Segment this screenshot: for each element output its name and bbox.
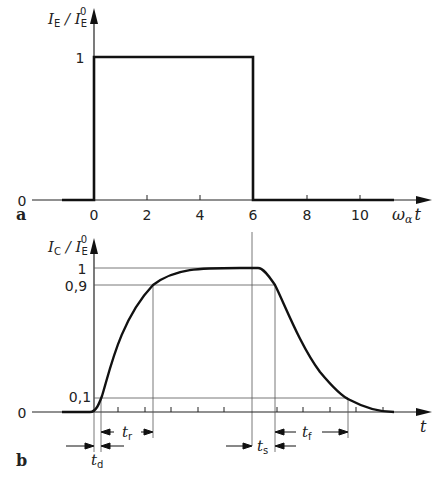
tf-label: tf — [302, 423, 312, 442]
panel-a-pulse-curve — [62, 57, 394, 200]
panel-a-x-arrow-icon — [416, 196, 432, 204]
panel-a-ytick-1: 1 — [76, 50, 85, 66]
panel-a-xtick-8: 8 — [303, 207, 312, 223]
panel-a-y-arrow-icon — [90, 8, 98, 24]
panel-b-ytick-0.1: 0,1 — [69, 389, 91, 405]
panel-a-xtick-2: 2 — [143, 207, 152, 223]
ts-label: ts — [257, 437, 268, 456]
panel-b-ytick-0.9: 0,9 — [65, 278, 87, 294]
panel-a-xtick-4: 4 — [196, 207, 205, 223]
tr-label: tr — [122, 423, 133, 442]
panel-b-ytick-1: 1 — [78, 261, 87, 277]
pulse-response-diagram: 1 0 0 2 4 6 8 10 ωαt IE / IE0 a — [0, 0, 439, 478]
panel-a-label: a — [16, 205, 26, 224]
panel-b-x-arrow-icon — [416, 408, 432, 416]
panel-b-ytick-0: 0 — [18, 405, 27, 421]
panel-a-xtick-6: 6 — [249, 207, 258, 223]
td-label: td — [91, 451, 103, 470]
panel-a-x-axis-label: ωαt — [392, 205, 421, 226]
panel-b-response-curve — [62, 268, 394, 412]
panel-a: 1 0 0 2 4 6 8 10 ωαt IE / IE0 a — [16, 6, 432, 226]
panel-b-label: b — [16, 451, 27, 470]
panel-a-y-axis-label: IE / IE0 — [47, 6, 87, 29]
panel-b: 1 0,9 0,1 0 t IC / IE0 — [16, 234, 432, 470]
panel-a-xtick-0: 0 — [90, 207, 99, 223]
panel-b-y-axis-label: IC / IE0 — [47, 234, 88, 257]
panel-a-xtick-10: 10 — [351, 207, 369, 223]
panel-b-y-arrow-icon — [90, 238, 98, 254]
panel-b-x-axis-label: t — [420, 417, 427, 436]
